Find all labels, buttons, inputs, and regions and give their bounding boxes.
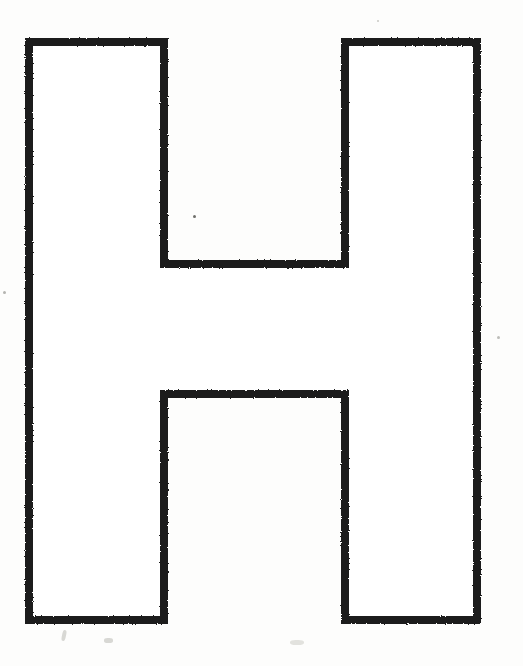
- figure-artboard: H: [0, 0, 523, 666]
- letter-h-figure: H: [0, 0, 523, 666]
- page-canvas: H: [0, 0, 523, 666]
